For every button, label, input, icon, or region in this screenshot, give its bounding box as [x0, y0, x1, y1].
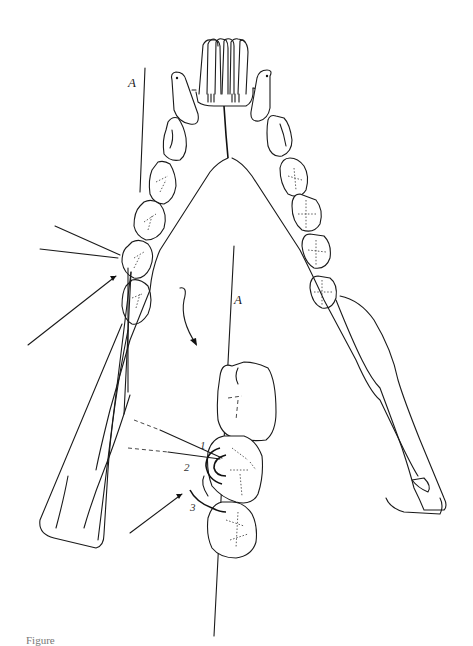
axis-label-lower: A [233, 292, 242, 307]
axis-label-upper: A [127, 75, 136, 90]
right-condyle [386, 498, 442, 514]
figure-caption: Figure [26, 634, 55, 646]
pointer-dash-1 [134, 420, 160, 430]
pointer-dash-2 [128, 448, 168, 452]
region-label-3: 3 [189, 501, 196, 513]
right-canine [251, 70, 271, 121]
rotation-arrow-icon [180, 288, 196, 344]
incisor-group [192, 39, 258, 106]
symphysis-line [224, 106, 228, 158]
pointer-arrow-lower [130, 494, 182, 533]
pointer-arrow-3 [28, 276, 116, 345]
pointer-line-1 [55, 226, 120, 255]
left-ramus [40, 324, 128, 548]
right-ramus [336, 296, 446, 510]
right-tooth-row [267, 116, 336, 309]
left-canine [172, 72, 199, 124]
axis-line-upper [140, 68, 145, 192]
mandible-inner-outline [96, 158, 228, 470]
region-label-2: 2 [184, 461, 190, 473]
left-tooth-row [122, 118, 186, 325]
pointer-line-2 [40, 249, 118, 258]
left-ramus-inner [56, 395, 130, 528]
